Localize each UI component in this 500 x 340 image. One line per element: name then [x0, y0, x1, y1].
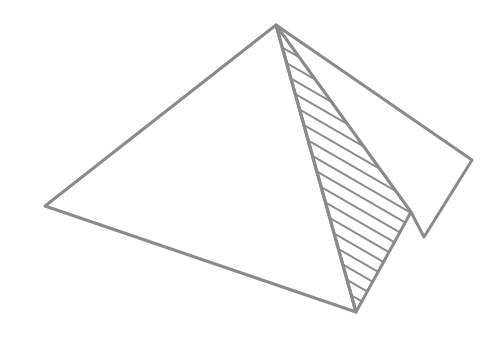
hatch-line: [200, 26, 500, 199]
hatch-line: [200, 117, 500, 290]
hatch-line: [200, 0, 500, 69]
hatch-line: [200, 182, 500, 340]
pyramid-diagram: [0, 0, 500, 340]
hatch-line: [200, 0, 500, 108]
hatch-line: [200, 0, 500, 134]
hatch-line: [200, 260, 500, 340]
hatch-line: [200, 0, 500, 82]
hatch-line: [200, 0, 500, 4]
hatch-line: [200, 65, 500, 238]
hatch-line: [200, 273, 500, 340]
hatch-line: [200, 13, 500, 186]
hatch-line: [200, 0, 500, 43]
hatch-line: [200, 0, 500, 121]
diagram-canvas: [0, 0, 500, 340]
hatch-line: [200, 312, 500, 340]
hatch-line: [200, 0, 500, 30]
left-face: [45, 25, 356, 312]
hatch-line: [200, 156, 500, 329]
hatch-line: [200, 0, 500, 160]
hatch-line: [200, 325, 500, 340]
hatch-line: [200, 299, 500, 340]
hatch-line: [200, 78, 500, 251]
hatch-line: [200, 91, 500, 264]
hatch-line: [200, 130, 500, 303]
hatch-line: [200, 0, 500, 17]
hatch-line: [200, 169, 500, 340]
hatch-line: [200, 52, 500, 225]
